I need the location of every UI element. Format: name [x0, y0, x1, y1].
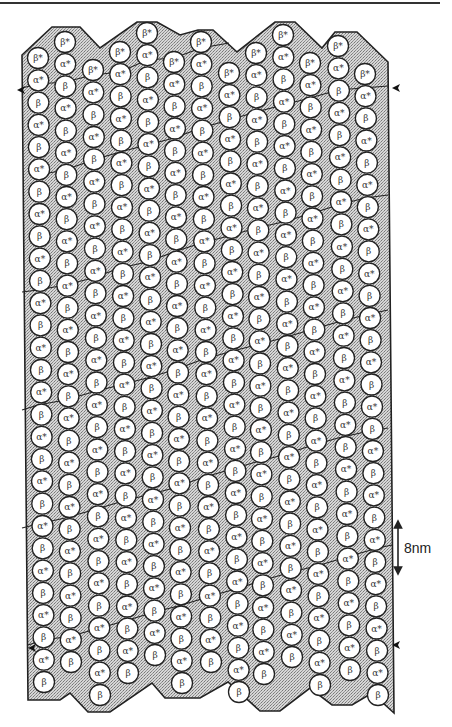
alpha-subunit: α* — [330, 147, 351, 168]
subunit-label: β — [340, 264, 345, 274]
subunit-label: α* — [233, 665, 244, 675]
subunit-label: β — [228, 201, 233, 211]
beta-subunit: β — [305, 364, 326, 385]
beta-subunit: β — [168, 362, 189, 383]
alpha-subunit: α* — [367, 662, 388, 683]
subunit-label: β — [287, 519, 292, 529]
beta-subunit: β — [360, 330, 381, 351]
subunit-label: β — [235, 599, 240, 609]
subunit-label: α* — [225, 134, 236, 144]
subunit-label: α* — [36, 343, 47, 353]
alpha-subunit: α* — [197, 452, 218, 473]
subunit-label: β — [283, 208, 288, 218]
subunit-label: β — [40, 499, 45, 509]
subunit-label: β — [236, 643, 241, 653]
beta-subunit: β — [142, 467, 163, 488]
beta-subunit: β — [84, 193, 105, 214]
subunit-label: β — [174, 279, 179, 289]
subunit-label: β — [261, 669, 266, 679]
subunit-label: α* — [118, 335, 129, 345]
subunit-label: β — [375, 690, 380, 700]
alpha-subunit: α* — [227, 615, 248, 636]
subunit-label: β — [147, 206, 152, 216]
subunit-label: β — [231, 378, 236, 388]
alpha-subunit: α* — [115, 463, 136, 484]
alpha-subunit: α* — [32, 471, 53, 492]
alpha-subunit: α* — [362, 396, 383, 417]
beta-subunit: β — [115, 441, 136, 462]
subunit-label: β — [370, 424, 375, 434]
beta-subunit: β — [32, 538, 53, 559]
subunit-label: β — [95, 511, 100, 521]
alpha-subunit: α* — [337, 504, 358, 525]
subunit-label: α* — [66, 635, 77, 645]
subunit-label: β — [36, 98, 41, 108]
subunit-label: α* — [117, 202, 128, 212]
beta-subunit: β — [200, 607, 221, 628]
subunit-label: β — [124, 535, 129, 545]
subunit-label: α* — [148, 495, 159, 505]
subunit-label: α* — [119, 380, 130, 390]
beta-subunit: β — [366, 596, 387, 617]
beta-subunit: β — [83, 104, 104, 125]
beta-subunit: β — [228, 637, 249, 658]
subunit-label: α* — [231, 532, 242, 542]
alpha-subunit: α* — [221, 217, 242, 238]
alpha-subunit: α* — [225, 438, 246, 459]
beta-subunit: β* — [355, 64, 376, 85]
subunit-label: β — [285, 385, 290, 395]
beta-subunit: β — [356, 152, 377, 173]
beta-subunit: β — [141, 334, 162, 355]
alpha-subunit: α* — [274, 136, 295, 157]
subunit-label: β — [150, 472, 155, 482]
subunit-label: β — [255, 181, 260, 191]
subunit-label: β — [38, 320, 43, 330]
subunit-label: α* — [251, 70, 262, 80]
subunit-label: β — [346, 620, 351, 630]
alpha-subunit: α* — [308, 608, 329, 629]
alpha-subunit: α* — [252, 508, 273, 529]
alpha-subunit: α* — [300, 75, 321, 96]
subunit-label: α* — [307, 169, 318, 179]
alpha-subunit: α* — [308, 563, 329, 584]
beta-subunit: β — [112, 219, 133, 240]
subunit-label: β — [206, 524, 211, 534]
beta-subunit: β — [56, 164, 77, 185]
subunit-label: β — [347, 665, 352, 675]
subunit-label: β — [261, 625, 266, 635]
subunit-label: α* — [279, 97, 290, 107]
subunit-label: α* — [118, 291, 129, 301]
alpha-subunit: α* — [31, 382, 52, 403]
subunit-label: β — [118, 136, 123, 146]
subunit-label: α* — [198, 148, 209, 158]
beta-subunit: β — [363, 463, 384, 484]
subunit-label: α* — [309, 347, 320, 357]
alpha-subunit: α* — [220, 129, 241, 150]
subunit-label: β — [282, 119, 287, 129]
subunit-label: β — [373, 601, 378, 611]
alpha-subunit: α* — [361, 352, 382, 373]
subunit-label: α* — [199, 236, 210, 246]
subunit-label: α* — [278, 52, 289, 62]
subunit-label: α* — [173, 390, 184, 400]
alpha-subunit: α* — [226, 527, 247, 548]
subunit-label: β — [312, 369, 317, 379]
subunit-label: α* — [282, 319, 293, 329]
subunit-label: β — [343, 442, 348, 452]
alpha-subunit: α* — [168, 429, 189, 450]
subunit-label: α* — [313, 569, 324, 579]
alpha-subunit: α* — [33, 649, 54, 670]
subunit-label: β — [371, 468, 376, 478]
subunit-label: β* — [33, 53, 43, 63]
subunit-label: α* — [93, 534, 104, 544]
subunit-label: β — [97, 690, 102, 700]
alpha-subunit: α* — [55, 98, 76, 119]
subunit-label: α* — [175, 567, 186, 577]
subunit-label: β — [148, 339, 153, 349]
subunit-label: α* — [227, 267, 238, 277]
beta-subunit: β — [247, 176, 268, 197]
subunit-label: β — [367, 291, 372, 301]
alpha-subunit: α* — [58, 408, 79, 429]
subunit-label: β — [145, 72, 150, 82]
beta-subunit: β — [277, 336, 298, 357]
